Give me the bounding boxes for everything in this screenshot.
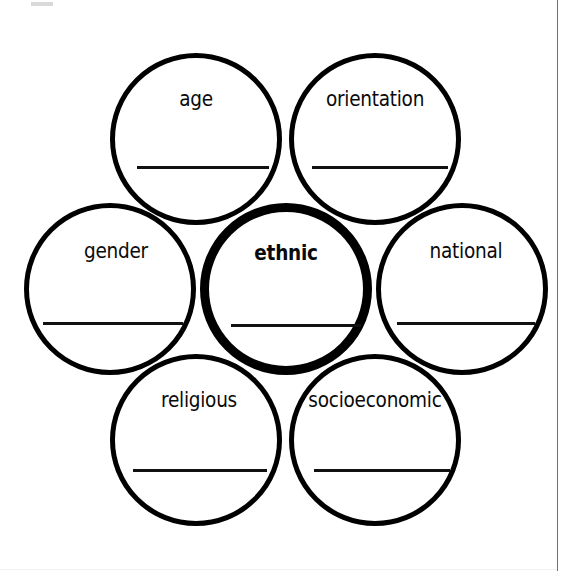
circle-religious[interactable]: religious (110, 354, 282, 526)
write-in-line-religious[interactable] (133, 469, 267, 472)
circle-orientation[interactable]: orientation (289, 53, 461, 225)
write-in-line-gender[interactable] (43, 322, 183, 325)
circle-label-gender: gender (50, 240, 182, 262)
circle-ethnic[interactable]: ethnic (200, 203, 372, 375)
write-in-line-national[interactable] (397, 322, 535, 325)
circle-label-religious: religious (130, 389, 267, 411)
circle-label-ethnic: ethnic (218, 242, 354, 264)
circle-national[interactable]: national (376, 203, 548, 375)
circle-label-orientation: orientation (304, 88, 447, 110)
write-in-line-age[interactable] (137, 166, 269, 169)
page-frame-right-rule (557, 0, 558, 571)
circle-label-national: national (398, 240, 534, 262)
circle-label-socioeconomic: socioeconomic (304, 389, 447, 411)
page-frame-bottom-rule (0, 569, 557, 570)
write-in-line-orientation[interactable] (312, 166, 448, 169)
write-in-line-ethnic[interactable] (231, 324, 361, 327)
write-in-line-socioeconomic[interactable] (314, 469, 450, 472)
diagram-canvas: age orientation gender national religiou… (0, 0, 571, 571)
circle-age[interactable]: age (110, 53, 282, 225)
circle-socioeconomic[interactable]: socioeconomic (289, 354, 461, 526)
circle-gender[interactable]: gender (24, 203, 196, 375)
circle-label-age: age (125, 88, 268, 110)
page-top-mark (31, 2, 53, 6)
